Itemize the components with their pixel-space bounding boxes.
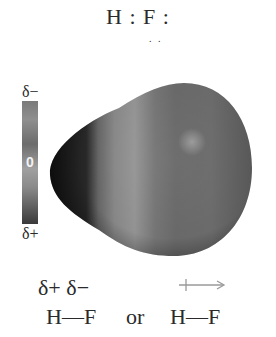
scale-label-zero: 0	[22, 154, 38, 170]
scale-label-negative: δ−	[22, 84, 39, 100]
hf-potential-map	[44, 80, 254, 258]
lewis-structure: H : F : . .	[0, 4, 276, 30]
partial-charges: δ+ δ−	[38, 275, 89, 301]
lone-pair-dots: . .	[149, 34, 163, 44]
scale-label-positive: δ+	[22, 226, 39, 242]
dipole-arrow-icon	[177, 276, 227, 294]
hf-formula-right: H—F	[170, 304, 220, 330]
or-label: or	[126, 304, 144, 330]
hf-formula-left: H—F	[46, 304, 96, 330]
lewis-text: H : F :	[106, 4, 170, 29]
